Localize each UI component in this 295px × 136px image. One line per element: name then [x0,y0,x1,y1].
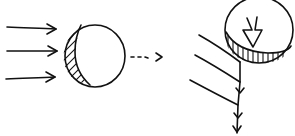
down-arrow-icon [243,17,262,47]
left-sphere [60,10,125,88]
arrow-icon [7,46,57,56]
sketch-canvas [0,0,295,136]
shaded-band [228,32,283,66]
right-sphere [225,0,293,66]
vertical-arrow-line [233,62,244,133]
incoming-arrows [6,24,57,82]
arrow-icon [6,72,55,82]
dotted-arrow-icon [131,53,162,61]
diagram-svg [0,0,295,136]
arrow-icon [7,24,56,34]
